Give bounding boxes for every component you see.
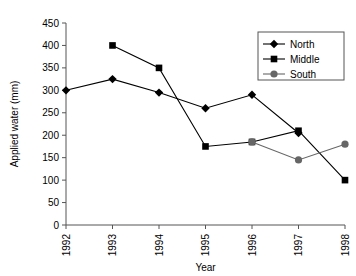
y-tick-label: 450 (42, 18, 59, 29)
y-tick-label: 0 (53, 220, 59, 231)
line-chart: 0501001502002503003504004501992199319941… (0, 0, 356, 276)
chart-canvas: 0501001502002503003504004501992199319941… (0, 0, 356, 276)
data-point-marker (155, 88, 163, 96)
legend-marker-square (271, 56, 278, 63)
y-tick-label: 150 (42, 152, 59, 163)
y-tick-label: 350 (42, 62, 59, 73)
data-point-marker (201, 104, 209, 112)
data-point-marker (295, 156, 302, 163)
data-point-marker (248, 138, 255, 145)
x-tick-label: 1997 (293, 234, 304, 257)
x-tick-label: 1992 (61, 234, 72, 257)
series-north (62, 75, 303, 137)
data-point-marker (108, 75, 116, 83)
series-line (66, 79, 299, 133)
legend: NorthMiddleSouth (258, 32, 344, 80)
series-south (248, 138, 348, 163)
data-point-marker (109, 42, 116, 49)
y-tick-label: 250 (42, 107, 59, 118)
data-point-marker (341, 141, 348, 148)
y-tick-label: 50 (48, 197, 60, 208)
x-tick-label: 1993 (107, 234, 118, 257)
legend-label: North (290, 39, 314, 50)
data-point-marker (342, 177, 349, 184)
y-tick-label: 100 (42, 175, 59, 186)
x-tick-label: 1996 (247, 234, 258, 257)
legend-label: Middle (290, 54, 320, 65)
y-tick-label: 400 (42, 40, 59, 51)
data-point-marker (156, 65, 163, 72)
x-tick-label: 1995 (200, 234, 211, 257)
x-tick-label: 1994 (154, 234, 165, 257)
legend-label: South (290, 69, 316, 80)
y-tick-label: 200 (42, 130, 59, 141)
legend-marker-circle (270, 70, 277, 77)
data-point-marker (202, 143, 209, 150)
data-point-marker (62, 86, 70, 94)
data-point-marker (295, 127, 302, 134)
x-axis-title: Year (195, 262, 216, 273)
y-axis-title: Applied water (mm) (9, 81, 20, 168)
x-tick-label: 1998 (340, 234, 351, 257)
y-tick-label: 300 (42, 85, 59, 96)
